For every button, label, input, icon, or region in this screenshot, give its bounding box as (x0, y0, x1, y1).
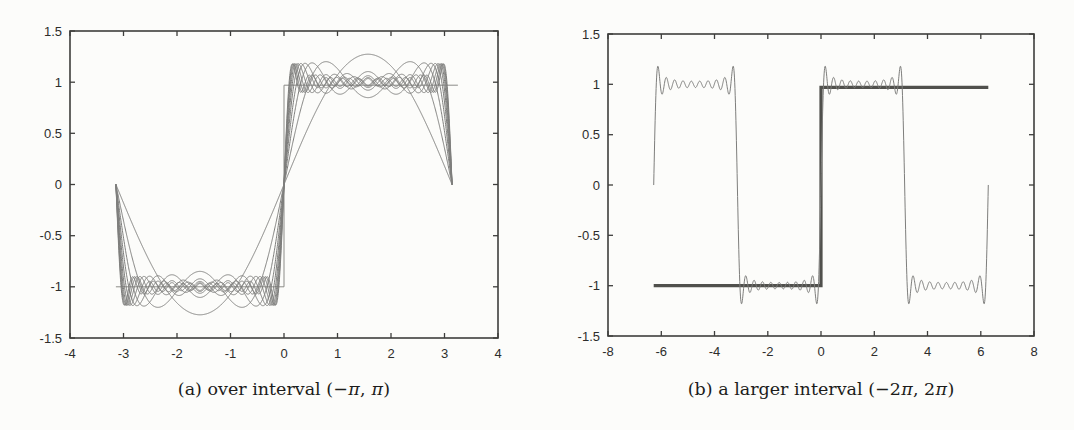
y-tick-label: -1 (588, 278, 600, 293)
y-tick-label: -1.5 (40, 331, 62, 346)
x-tick-label: 0 (280, 346, 287, 361)
y-tick-label: 0.5 (44, 126, 62, 141)
y-tick-label: 0 (55, 177, 62, 192)
series-group (116, 54, 458, 315)
plot-b-larger-interval-chart: -8-6-4-202468-1.5-1-0.500.511.5 (537, 0, 1074, 375)
y-tick-label: -1 (50, 279, 62, 294)
ticks-and-labels: -8-6-4-202468-1.5-1-0.500.511.5 (578, 27, 1038, 360)
x-tick-label: 4 (924, 344, 931, 359)
x-tick-label: 8 (1030, 344, 1037, 359)
x-tick-label: -1 (225, 346, 237, 361)
x-tick-label: 4 (494, 346, 501, 361)
x-tick-label: -6 (656, 344, 668, 359)
y-tick-label: 0.5 (582, 127, 600, 142)
x-tick-label: 1 (334, 346, 341, 361)
x-tick-label: -2 (762, 344, 774, 359)
series-group (654, 66, 989, 303)
y-tick-label: 1 (593, 77, 600, 92)
x-tick-label: 2 (871, 344, 878, 359)
x-tick-label: 0 (817, 344, 824, 359)
y-tick-label: 1.5 (582, 27, 600, 42)
x-tick-label: 3 (441, 346, 448, 361)
y-tick-label: 1.5 (44, 24, 62, 39)
caption-a: (a) over interval(−π, π) (70, 379, 498, 399)
y-tick-label: -0.5 (578, 228, 600, 243)
caption-b: (b) a larger interval(−2π, 2π) (608, 379, 1034, 399)
y-tick-label: 1 (55, 75, 62, 90)
x-tick-label: 6 (977, 344, 984, 359)
caption-a-text: (a) over interval (178, 379, 321, 399)
x-tick-label: 2 (387, 346, 394, 361)
x-tick-label: -4 (64, 346, 76, 361)
caption-b-math: (−2π, 2π) (868, 379, 954, 399)
x-tick-label: -2 (171, 346, 183, 361)
x-tick-label: -3 (118, 346, 130, 361)
caption-a-math: (−π, π) (326, 379, 390, 399)
y-tick-label: 0 (593, 178, 600, 193)
x-tick-label: -4 (709, 344, 721, 359)
y-tick-label: -1.5 (578, 329, 600, 344)
y-tick-label: -0.5 (40, 228, 62, 243)
caption-b-text: (b) a larger interval (688, 379, 863, 399)
fourier-square-wave-figure: -4-3-2-101234-1.5-1-0.500.511.5 -8-6-4-2… (0, 0, 1074, 430)
x-tick-label: -8 (602, 344, 614, 359)
plot-a-partial-sums-chart: -4-3-2-101234-1.5-1-0.500.511.5 (0, 0, 537, 375)
